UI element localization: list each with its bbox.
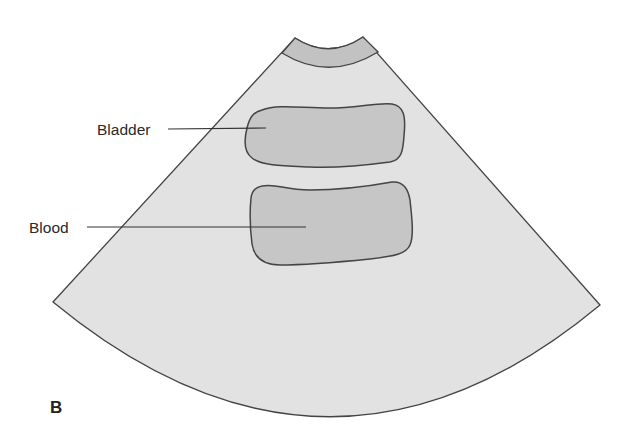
panel-label: B [50, 398, 62, 417]
bladder-region [245, 104, 405, 168]
ultrasound-sector-diagram: Bladder Blood B [0, 0, 628, 436]
blood-label: Blood [29, 219, 69, 236]
blood-region [250, 182, 412, 265]
bladder-label: Bladder [97, 121, 150, 138]
